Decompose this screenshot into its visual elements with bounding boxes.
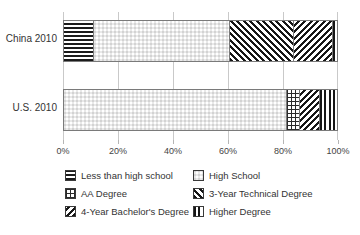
legend: Less than high school High School AA Deg… — [65, 166, 355, 220]
legend-item-4-year-bachelors-degree[interactable]: 4-Year Bachelor's Degree — [65, 206, 193, 217]
segment-us-higher-degree[interactable] — [319, 90, 337, 130]
segment-china-higher-degree[interactable] — [332, 21, 337, 61]
plot-area — [63, 12, 338, 140]
segment-china-4-year-bachelors-degree[interactable] — [293, 21, 331, 61]
legend-row-3: 4-Year Bachelor's Degree Higher Degree — [65, 202, 355, 220]
legend-label: High School — [209, 170, 260, 181]
legend-row-2: AA Degree 3-Year Technical Degree — [65, 184, 355, 202]
category-label-china: China 2010 — [0, 33, 57, 44]
tick-mark-100 — [338, 140, 339, 144]
legend-swatch-vertical-lines-icon — [193, 206, 204, 217]
tick-mark-80 — [283, 140, 284, 144]
legend-swatch-diagonal-back-icon — [65, 206, 76, 217]
tick-mark-60 — [228, 140, 229, 144]
tick-label-20: 20% — [109, 146, 127, 156]
legend-row-1: Less than high school High School — [65, 166, 355, 184]
legend-item-3-year-technical-degree[interactable]: 3-Year Technical Degree — [193, 188, 353, 199]
legend-item-higher-degree[interactable]: Higher Degree — [193, 206, 353, 217]
legend-label: 4-Year Bachelor's Degree — [81, 206, 189, 217]
bar-china[interactable] — [63, 20, 338, 62]
tick-label-80: 80% — [274, 146, 292, 156]
tick-label-40: 40% — [164, 146, 182, 156]
segment-us-aa-degree[interactable] — [286, 90, 298, 130]
legend-swatch-fine-grid-icon — [65, 188, 76, 199]
legend-item-less-than-high-school[interactable]: Less than high school — [65, 170, 193, 181]
segment-us-4-year-bachelors-degree[interactable] — [299, 90, 319, 130]
tick-mark-20 — [118, 140, 119, 144]
legend-label: Higher Degree — [209, 206, 271, 217]
segment-us-high-school[interactable] — [64, 90, 286, 130]
legend-item-high-school[interactable]: High School — [193, 170, 353, 181]
stacked-bar-chart: China 2010 U.S. 2010 0% 20% 40% 60% 80% — [0, 0, 360, 235]
segment-china-less-than-high-school[interactable] — [64, 21, 93, 61]
legend-item-aa-degree[interactable]: AA Degree — [65, 188, 193, 199]
legend-label: 3-Year Technical Degree — [209, 188, 313, 199]
segment-china-high-school[interactable] — [93, 21, 230, 61]
tick-mark-40 — [173, 140, 174, 144]
legend-swatch-horizontal-lines-icon — [65, 170, 76, 181]
category-label-us: U.S. 2010 — [0, 102, 57, 113]
bar-us[interactable] — [63, 89, 338, 131]
tick-mark-0 — [63, 140, 64, 144]
legend-swatch-checkerboard-icon — [193, 170, 204, 181]
tick-label-100: 100% — [326, 146, 349, 156]
tick-label-60: 60% — [219, 146, 237, 156]
legend-label: Less than high school — [81, 170, 173, 181]
tick-label-0: 0% — [56, 146, 69, 156]
legend-swatch-diagonal-forward-icon — [193, 188, 204, 199]
legend-label: AA Degree — [81, 188, 127, 199]
segment-china-3-year-technical-degree[interactable] — [229, 21, 293, 61]
